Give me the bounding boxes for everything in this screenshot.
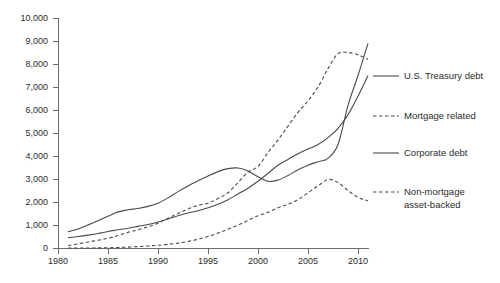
y-tick-label: 8,000: [25, 59, 48, 69]
y-axis-tick-marks: [53, 19, 58, 249]
x-tick-label: 1990: [148, 256, 168, 266]
x-tick-label: 1980: [48, 256, 68, 266]
legend-label-0: U.S. Treasury debt: [404, 70, 484, 81]
x-tick-label: 1995: [198, 256, 218, 266]
y-tick-label: 1,000: [25, 220, 48, 230]
x-tick-label: 2005: [298, 256, 318, 266]
chart-legend: U.S. Treasury debtMortgage relatedCorpor…: [373, 70, 484, 210]
chart-page: 01,0002,0003,0004,0005,0006,0007,0008,00…: [0, 0, 500, 283]
legend-label-3: Non-mortgage: [404, 186, 465, 197]
series-lines: [68, 43, 368, 248]
x-tick-label: 1985: [98, 256, 118, 266]
legend-label-2: Corporate debt: [404, 147, 468, 158]
y-tick-label: 9,000: [25, 36, 48, 46]
x-axis-tick-labels: 1980198519901995200020052010: [48, 256, 368, 266]
line-chart: 01,0002,0003,0004,0005,0006,0007,0008,00…: [0, 0, 500, 283]
y-axis-tick-labels: 01,0002,0003,0004,0005,0006,0007,0008,00…: [20, 13, 48, 253]
y-tick-label: 7,000: [25, 82, 48, 92]
legend-label-3-line2: asset-backed: [404, 199, 461, 210]
y-tick-label: 3,000: [25, 174, 48, 184]
y-tick-label: 0: [43, 243, 48, 253]
legend-label-1: Mortgage related: [404, 110, 476, 121]
series-line-1: [68, 52, 368, 245]
y-tick-label: 10,000: [20, 13, 48, 23]
y-tick-label: 5,000: [25, 128, 48, 138]
series-line-0: [68, 43, 368, 232]
x-tick-label: 2010: [348, 256, 368, 266]
y-tick-label: 6,000: [25, 105, 48, 115]
x-tick-label: 2000: [248, 256, 268, 266]
y-tick-label: 2,000: [25, 197, 48, 207]
y-tick-label: 4,000: [25, 151, 48, 161]
